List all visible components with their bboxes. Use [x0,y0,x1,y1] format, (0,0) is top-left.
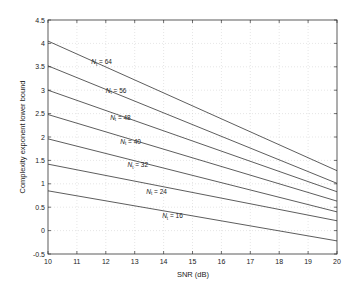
series-label: Nt = 64 [91,58,112,67]
axis-ticks: 1011121314151617181920-0.500.511.522.533… [33,17,341,266]
x-tick-label: 17 [246,258,254,265]
y-tick-label: 1 [41,180,45,187]
series-label: Nt = 40 [120,138,141,147]
x-tick-label: 20 [333,258,341,265]
y-tick-label: 3 [41,87,45,94]
series-label: Nt = 32 [127,161,148,170]
y-tick-label: 3.5 [35,63,45,70]
y-axis-label: Complexity exponent lower bound [18,81,27,194]
y-tick-label: 2.5 [35,110,45,117]
chart: 1011121314151617181920-0.500.511.522.533… [0,0,359,292]
x-tick-label: 10 [44,258,52,265]
x-tick-label: 11 [73,258,80,265]
y-tick-label: 4 [41,40,45,47]
x-axis-label: SNR (dB) [177,270,210,279]
x-tick-label: 13 [131,258,139,265]
x-tick-label: 18 [275,258,283,265]
series-label: Nt = 16 [162,212,183,221]
y-tick-label: 0 [41,227,45,234]
x-tick-label: 15 [189,258,197,265]
grid-lines [48,20,337,254]
x-tick-label: 16 [218,258,226,265]
y-tick-label: 0.5 [35,204,45,211]
y-tick-label: 2 [41,134,45,141]
series-label: Nt = 24 [146,188,167,197]
x-tick-label: 12 [102,258,110,265]
x-tick-label: 14 [160,258,168,265]
y-tick-label: -0.5 [33,251,45,258]
series-label: Nt = 48 [110,114,131,123]
y-tick-label: 4.5 [35,17,45,24]
y-tick-label: 1.5 [35,157,45,164]
x-tick-label: 19 [304,258,312,265]
series-labels: Nt = 64Nt = 56Nt = 48Nt = 40Nt = 32Nt = … [91,58,183,220]
